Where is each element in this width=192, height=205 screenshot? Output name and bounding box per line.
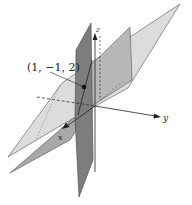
z-axis-label: z	[95, 26, 100, 34]
x-axis-label: x	[58, 133, 63, 142]
plane-dark	[75, 23, 93, 197]
intersection-point	[82, 85, 87, 90]
y-axis	[95, 106, 155, 116]
y-axis-label: y	[162, 113, 169, 123]
point-label: (1, −1, 2)	[27, 61, 80, 74]
y-axis-arrow-icon	[154, 114, 162, 119]
three-planes-diagram: (1, −1, 2) z y x	[0, 0, 192, 205]
z-axis-arrow-icon	[93, 33, 98, 40]
